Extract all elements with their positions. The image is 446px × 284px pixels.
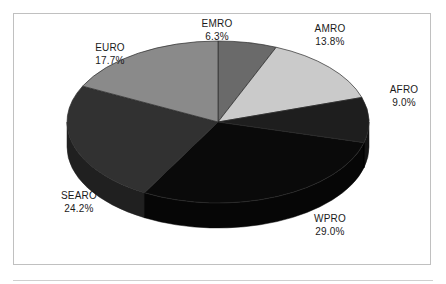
pie-chart-figure: EMRO6.3%AMRO13.8%AFRO9.0%WPRO29.0%SEARO2… [0, 0, 446, 284]
slice-label-name-searo: SEARO [61, 190, 97, 201]
slice-label-value-emro: 6.3% [205, 31, 229, 42]
slice-label-value-searo: 24.2% [64, 203, 93, 214]
page-bottom-rule [13, 280, 433, 281]
slice-label-value-amro: 13.8% [315, 36, 344, 47]
pie-chart-canvas: EMRO6.3%AMRO13.8%AFRO9.0%WPRO29.0%SEARO2… [0, 0, 446, 284]
slice-label-name-wpro: WPRO [314, 213, 346, 224]
slice-label-name-emro: EMRO [202, 18, 233, 29]
slice-label-name-afro: AFRO [390, 84, 419, 95]
slice-label-value-wpro: 29.0% [315, 226, 344, 237]
slice-label-value-euro: 17.7% [95, 55, 124, 66]
slice-label-name-euro: EURO [95, 42, 125, 53]
slice-label-value-afro: 9.0% [392, 97, 416, 108]
slice-label-name-amro: AMRO [315, 23, 346, 34]
